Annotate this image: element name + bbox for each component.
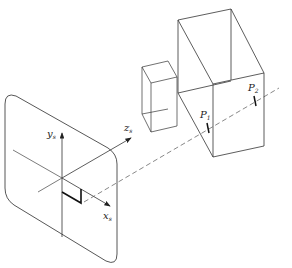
p1-marker xyxy=(207,123,209,133)
p2-marker xyxy=(254,96,256,106)
y-axis-label: ys xyxy=(46,128,56,140)
projected-image xyxy=(62,189,81,203)
horizontal-line xyxy=(13,150,62,178)
small-box xyxy=(142,61,177,132)
z-axis xyxy=(62,138,131,178)
diag-line xyxy=(38,178,62,192)
projection-diagram: ys zs xs P1 P2 xyxy=(0,0,292,268)
projection-ray xyxy=(84,88,279,202)
p1-label: P1 xyxy=(199,109,211,121)
x-axis xyxy=(62,178,110,206)
p2-label: P2 xyxy=(247,82,259,94)
x-axis-label: xs xyxy=(103,210,112,222)
z-axis-label: zs xyxy=(123,122,132,134)
